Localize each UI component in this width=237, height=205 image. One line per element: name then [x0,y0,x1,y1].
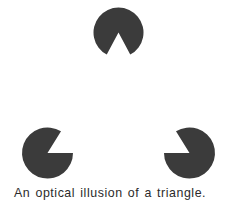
illusion-figure: An optical illusion of a triangle. [0,0,237,205]
figure-caption: An optical illusion of a triangle. [14,186,229,200]
kanizsa-triangle-illustration [0,0,237,185]
